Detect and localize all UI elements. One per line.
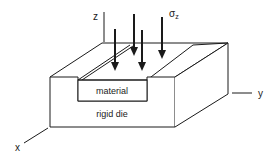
axis-y-label: y (258, 88, 263, 99)
material-label: material (96, 86, 128, 96)
axis-z-label: z (93, 11, 98, 22)
x-axis-line (24, 128, 48, 143)
stress-subscript: z (175, 13, 179, 20)
die-right-face (175, 43, 228, 127)
stress-label: σz (169, 8, 179, 20)
axis-x-label: x (15, 142, 20, 153)
die-label: rigid die (96, 109, 128, 119)
die-diagram: z y x σz material rigid die (0, 0, 278, 160)
diagram-canvas: z y x σz material rigid die (0, 0, 278, 160)
